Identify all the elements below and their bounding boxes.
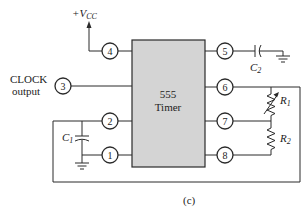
555-timer-chip: 555 Timer (132, 40, 205, 167)
chip-number: 555 (160, 88, 177, 100)
svg-text:2: 2 (108, 116, 113, 127)
pin-2: 2 (102, 113, 132, 129)
figure-caption: (c) (183, 194, 196, 207)
pin-7: 7 (205, 113, 233, 129)
r2-label: R2 (279, 132, 291, 146)
vcc-label: +VCC (72, 7, 97, 21)
svg-text:4: 4 (108, 46, 113, 57)
c2-label: C2 (250, 61, 261, 75)
pin-6: 6 (205, 79, 233, 95)
pin-5: 5 (205, 43, 233, 59)
vcc-supply: +VCC (72, 7, 102, 51)
svg-text:3: 3 (61, 81, 66, 92)
variable-resistor-r1: R1 (264, 87, 291, 121)
ground-icon (75, 163, 89, 169)
arrow-icon (274, 92, 280, 98)
resistor-r2: R2 (267, 121, 291, 155)
ground-icon (276, 56, 290, 62)
svg-text:8: 8 (223, 150, 228, 161)
555-timer-circuit-diagram: 555 Timer +VCC 4 CLOCK output 3 2 1 (0, 0, 308, 211)
chip-name: Timer (155, 101, 182, 113)
pin-3: 3 (55, 78, 132, 94)
clock-label-line2: output (12, 85, 40, 97)
svg-text:5: 5 (223, 46, 228, 57)
svg-text:7: 7 (223, 116, 228, 127)
r1-label: R1 (279, 94, 291, 108)
pin-1: 1 (102, 147, 132, 163)
control-capacitor-c2: C2 (233, 45, 283, 75)
svg-text:1: 1 (108, 150, 113, 161)
pin-4: 4 (102, 43, 132, 59)
svg-text:6: 6 (223, 82, 228, 93)
pin-8: 8 (205, 147, 233, 163)
clock-output: CLOCK output (10, 73, 47, 97)
c1-label: C1 (62, 131, 73, 145)
arrow-up-icon (87, 21, 92, 28)
clock-label-line1: CLOCK (10, 73, 47, 85)
